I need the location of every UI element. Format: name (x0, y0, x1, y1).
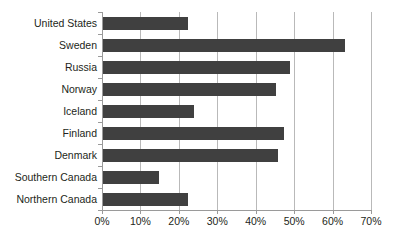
category-label: United States (2, 17, 97, 29)
bar (102, 149, 278, 162)
category-label: Iceland (2, 105, 97, 117)
gridline-70 (371, 12, 372, 210)
category-label: Russia (2, 61, 97, 73)
bar (102, 105, 194, 118)
x-tick-label: 10% (120, 214, 160, 228)
x-tick-label: 60% (313, 214, 353, 228)
category-axis-labels: United StatesSwedenRussiaNorwayIcelandFi… (0, 12, 97, 210)
bar-row (102, 78, 371, 100)
y-tick-mark (98, 34, 102, 35)
y-tick-mark (98, 144, 102, 145)
x-tick-mark (179, 210, 180, 214)
bar (102, 83, 276, 96)
y-tick-mark (98, 166, 102, 167)
category-label: Southern Canada (2, 171, 97, 183)
x-axis-tick-labels: 0%10%20%30%40%50%60%70% (0, 214, 400, 234)
category-label: Northern Canada (2, 193, 97, 205)
x-axis-line (102, 210, 372, 211)
bar-row (102, 122, 371, 144)
x-tick-label: 20% (159, 214, 199, 228)
x-tick-mark (217, 210, 218, 214)
y-tick-mark (98, 100, 102, 101)
plot-area (102, 12, 371, 210)
bar-chart: United StatesSwedenRussiaNorwayIcelandFi… (0, 0, 400, 242)
x-tick-mark (371, 210, 372, 214)
category-label: Denmark (2, 149, 97, 161)
bar (102, 171, 159, 184)
bar (102, 193, 188, 206)
x-tick-label: 0% (82, 214, 122, 228)
bar-row (102, 188, 371, 210)
y-tick-mark (98, 78, 102, 79)
bar-row (102, 34, 371, 56)
y-axis-line (102, 12, 103, 210)
category-label: Finland (2, 127, 97, 139)
x-tick-mark (333, 210, 334, 214)
bar-row (102, 166, 371, 188)
bar (102, 17, 188, 30)
y-tick-mark (98, 12, 102, 13)
category-label: Sweden (2, 39, 97, 51)
bar-row (102, 100, 371, 122)
x-tick-label: 70% (351, 214, 391, 228)
y-tick-mark (98, 210, 102, 211)
x-tick-mark (102, 210, 103, 214)
x-tick-mark (140, 210, 141, 214)
bar (102, 61, 290, 74)
bar (102, 127, 284, 140)
bar (102, 39, 345, 52)
x-tick-label: 30% (197, 214, 237, 228)
category-label: Norway (2, 83, 97, 95)
x-tick-label: 50% (274, 214, 314, 228)
x-tick-mark (294, 210, 295, 214)
y-tick-mark (98, 188, 102, 189)
y-tick-mark (98, 56, 102, 57)
bar-row (102, 56, 371, 78)
x-tick-label: 40% (236, 214, 276, 228)
bar-row (102, 144, 371, 166)
x-tick-mark (256, 210, 257, 214)
y-tick-mark (98, 122, 102, 123)
bar-row (102, 12, 371, 34)
